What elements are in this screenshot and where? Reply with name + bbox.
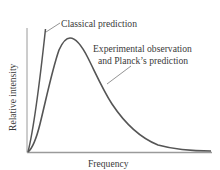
classical-leader-line: [46, 23, 60, 32]
classical-prediction-label: Classical prediction: [61, 18, 137, 29]
x-axis-title: Frequency: [88, 158, 129, 169]
experimental-label-line1: Experimental observation: [93, 43, 192, 54]
planck-radiation-chart: Classical prediction Experimental observ…: [0, 0, 220, 170]
y-axis-title: Relative intensity: [7, 63, 18, 131]
experimental-label-line2: and Planck’s prediction: [98, 55, 188, 66]
planck-leader-line: [107, 66, 131, 84]
